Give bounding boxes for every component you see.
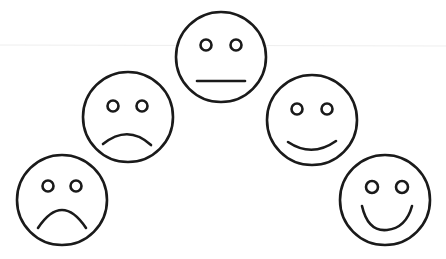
neutral-face-icon <box>176 12 266 102</box>
very-sad-face-icon <box>17 155 107 245</box>
faces-canvas <box>0 0 446 259</box>
sad-face-icon <box>83 72 173 162</box>
emotion-scale <box>0 0 446 259</box>
very-happy-face-icon <box>340 155 430 245</box>
happy-face-icon <box>267 75 357 165</box>
